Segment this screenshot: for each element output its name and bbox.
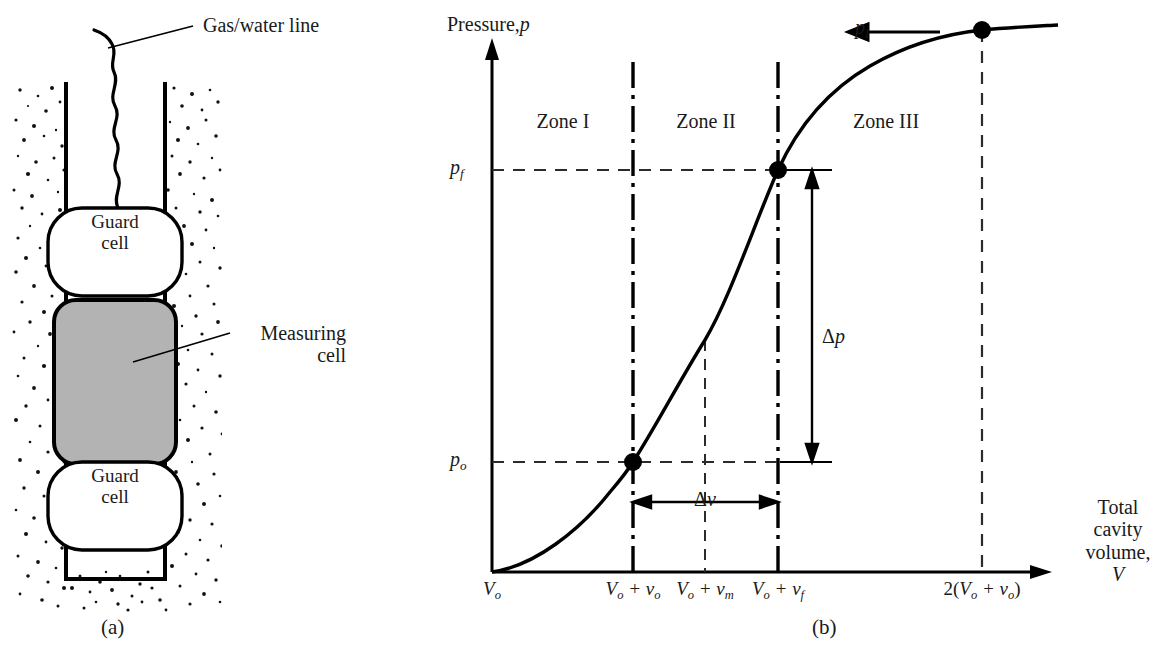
marker-po bbox=[624, 453, 642, 471]
delta-p-symbol: Δ bbox=[822, 325, 835, 347]
guard-cell-bottom-text: Guard cell bbox=[67, 466, 163, 507]
y-axis-arrowhead bbox=[485, 38, 499, 60]
measuring-cell-label-line1: Measuring bbox=[236, 322, 346, 344]
vovf-suffix: + v bbox=[775, 578, 801, 599]
twovo-sub: o bbox=[971, 588, 977, 602]
pl-sub: l bbox=[865, 26, 869, 41]
twovo-base: V bbox=[959, 578, 971, 599]
zone-label-3: Zone III bbox=[853, 110, 919, 132]
vo-sub: o bbox=[495, 588, 501, 602]
guard-cell-bottom-line2: cell bbox=[67, 487, 163, 508]
guard-cell-top-line2: cell bbox=[67, 233, 163, 254]
y-axis-label-text: Pressure, bbox=[447, 13, 520, 35]
y-tick-label-po: po bbox=[450, 448, 467, 473]
x-axis-label-line3: volume, bbox=[1072, 541, 1164, 563]
po-base: p bbox=[450, 448, 460, 470]
marker-pl bbox=[973, 21, 991, 39]
vovo-sub: o bbox=[617, 588, 623, 602]
pf-sub: f bbox=[460, 166, 464, 181]
x-tick-label-Vo-plus-vf: Vo + vf bbox=[752, 578, 804, 602]
x-axis-label-line2: cavity bbox=[1072, 518, 1164, 540]
delta-p-arrow bbox=[806, 170, 818, 462]
vovf-sub: o bbox=[764, 588, 770, 602]
twovo-prefix: 2( bbox=[943, 578, 959, 599]
gas-water-leader bbox=[108, 26, 193, 48]
x-tick-label-Vo: Vo bbox=[483, 578, 501, 602]
pf-base: p bbox=[450, 156, 460, 178]
vovf-base: V bbox=[752, 578, 764, 599]
p-limit-label: pl bbox=[855, 16, 869, 41]
po-sub: o bbox=[460, 458, 467, 473]
x-axis-label: Total cavity volume, V bbox=[1072, 496, 1164, 586]
x-axis-arrowhead bbox=[1030, 565, 1052, 579]
y-axis-label-symbol: p bbox=[520, 13, 530, 35]
x-tick-label-Vo-plus-vo: Vo + vo bbox=[606, 578, 661, 602]
measuring-cell-shape bbox=[54, 300, 176, 464]
marker-pf bbox=[769, 161, 787, 179]
zone-label-2: Zone II bbox=[676, 110, 735, 132]
figure-root: Gas/water line Measuring cell Guard cell… bbox=[0, 0, 1166, 666]
delta-p-label: Δp bbox=[822, 325, 845, 347]
delta-v-symbol: Δ bbox=[694, 488, 707, 510]
vo-base: V bbox=[483, 578, 495, 599]
delta-v-base: v bbox=[707, 488, 716, 510]
guard-cell-top-line1: Guard bbox=[67, 212, 163, 233]
x-tick-label-2Vo-plus-vo: 2(Vo + vo) bbox=[943, 578, 1020, 602]
vovo-suffix-sub: o bbox=[654, 588, 660, 602]
zone-label-1: Zone I bbox=[537, 110, 590, 132]
x-axis-label-symbol: V bbox=[1072, 563, 1164, 585]
x-tick-label-Vo-plus-vm: Vo + vm bbox=[676, 578, 734, 602]
y-axis-label: Pressure,p bbox=[447, 13, 530, 35]
vovo-suffix: + v bbox=[628, 578, 654, 599]
twovo-suffix: + v bbox=[982, 578, 1008, 599]
soil-stipple-bottom bbox=[70, 571, 167, 612]
panel-a-caption: (a) bbox=[101, 616, 124, 640]
vovm-suffix-sub: m bbox=[725, 588, 734, 602]
panel-b-caption: (b) bbox=[812, 616, 837, 640]
vovm-sub: o bbox=[688, 588, 694, 602]
pressure-volume-curve bbox=[492, 25, 1058, 572]
vovm-suffix: + v bbox=[699, 578, 725, 599]
vovo-base: V bbox=[606, 578, 618, 599]
pl-base: p bbox=[855, 16, 865, 38]
gas-water-line-tube bbox=[94, 30, 119, 208]
x-axis-label-line1: Total bbox=[1072, 496, 1164, 518]
panel-b-chart bbox=[440, 10, 1140, 630]
y-tick-label-pf: pf bbox=[450, 156, 464, 181]
gas-water-line-label: Gas/water line bbox=[203, 14, 319, 36]
measuring-cell-label: Measuring cell bbox=[236, 322, 346, 367]
delta-p-base: p bbox=[835, 325, 845, 347]
vovm-base: V bbox=[676, 578, 688, 599]
guard-cell-bottom-line1: Guard bbox=[67, 466, 163, 487]
delta-v-label: Δv bbox=[694, 488, 716, 510]
guard-cell-top-text: Guard cell bbox=[67, 212, 163, 253]
measuring-cell-label-line2: cell bbox=[236, 344, 346, 366]
twovo-close: ) bbox=[1014, 578, 1020, 599]
vovf-suffix-sub: f bbox=[801, 588, 804, 602]
